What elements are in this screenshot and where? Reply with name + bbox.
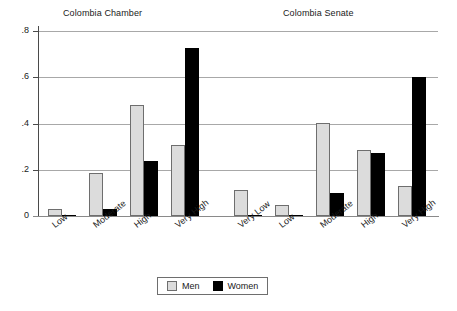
bar-men bbox=[357, 150, 371, 216]
legend-swatch-women-icon bbox=[213, 281, 223, 291]
bar-women bbox=[185, 48, 199, 216]
bar-women bbox=[144, 161, 158, 216]
panel-title-chamber: Colombia Chamber bbox=[63, 8, 142, 18]
bar-women bbox=[412, 77, 426, 216]
legend-entry-men: Men bbox=[167, 281, 200, 291]
bar-chart: Colombia Chamber Colombia Senate 0.2.4.6… bbox=[0, 0, 457, 311]
legend-label-men: Men bbox=[182, 282, 200, 291]
bar-men bbox=[398, 186, 412, 216]
bar-men bbox=[89, 173, 103, 216]
bar-men bbox=[234, 190, 248, 216]
bars-layer bbox=[38, 31, 444, 216]
bar-men bbox=[171, 145, 185, 216]
y-tick-label: .8 bbox=[0, 26, 29, 35]
legend-entry-women: Women bbox=[213, 281, 259, 291]
legend-swatch-men-icon bbox=[167, 281, 177, 291]
bar-men bbox=[130, 105, 144, 216]
panel-title-senate: Colombia Senate bbox=[283, 8, 354, 18]
legend-label-women: Women bbox=[228, 282, 259, 291]
legend: Men Women bbox=[157, 277, 268, 295]
bar-men bbox=[316, 123, 330, 216]
y-tick-label: .2 bbox=[0, 165, 29, 174]
y-tick-label: 0 bbox=[0, 211, 29, 220]
y-tick-label: .4 bbox=[0, 119, 29, 128]
y-tick-label: .6 bbox=[0, 72, 29, 81]
bar-women bbox=[371, 153, 385, 216]
